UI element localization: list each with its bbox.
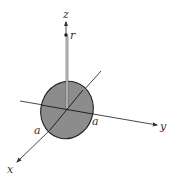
y-axis-label: y [159,120,167,133]
x-axis-label: x [7,163,14,176]
y-axis-front [93,114,157,125]
point-r-label: r [70,29,76,42]
diagram-canvas: z r y x a a [0,0,172,176]
radius-label-x: a [34,124,41,137]
z-axis-label: z [62,8,69,21]
disk-diagram: z r y x a a [0,0,172,176]
radius-label-y: a [92,115,99,128]
point-r [64,33,68,37]
